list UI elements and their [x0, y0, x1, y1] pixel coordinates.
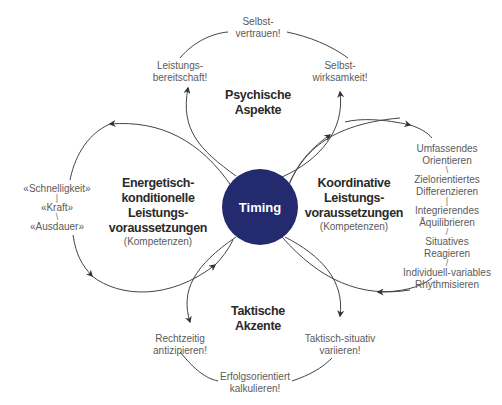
- heading-energetisch-konditionelle: Energetisch- konditionelle Leistungs- vo…: [98, 176, 218, 248]
- left-petal-lower-arm: [92, 265, 215, 292]
- left-outer-top: [70, 124, 110, 180]
- item-taktisch-situativ-variieren: Taktisch-situativ variieren!: [290, 333, 390, 357]
- right-items-list: UmfassendesOrientieren \ Zielorientierte…: [392, 143, 502, 291]
- timing-label: Timing: [239, 200, 281, 215]
- item-individuell-rhythmisieren: Individuell-variablesRhythmisieren: [392, 267, 502, 291]
- item-selbstvertrauen: Selbst- vertrauen!: [230, 16, 286, 40]
- top-outer-arc-right: [287, 32, 348, 58]
- right-upper-arc: [345, 120, 410, 125]
- timing-circle: Timing: [222, 169, 298, 245]
- item-leistungsbereitschaft: Leistungs- bereitschaft!: [140, 60, 220, 84]
- item-zielorientiertes-differenzieren: ZielorientiertesDifferenzieren: [392, 174, 502, 198]
- item-umfassendes-orientieren: UmfassendesOrientieren: [392, 143, 502, 167]
- heading-taktische-akzente: Taktische Akzente: [208, 304, 308, 334]
- item-erfolgsorientiert-kalkulieren: Erfolgsorientiert kalkulieren!: [205, 371, 305, 395]
- item-ausdauer: «Ausdauer»: [18, 221, 96, 233]
- left-outer-bottom: [73, 235, 92, 276]
- right-outer-top: [410, 125, 432, 138]
- item-integrierendes-aequilibrieren: IntegrierendesÄquilibrieren: [392, 205, 502, 229]
- item-selbstwirksamkeit: Selbst- wirksamkeit!: [300, 60, 380, 84]
- heading-psychische-aspekte: Psychische Aspekte: [208, 88, 308, 118]
- item-situatives-reagieren: SituativesReagieren: [392, 236, 502, 260]
- right-petal-lower-arm: [282, 237, 410, 292]
- top-outer-arc-left: [180, 32, 228, 58]
- left-items-list: «Schnelligkeit» | «Kraft» \ «Ausdauer»: [18, 183, 96, 233]
- item-rechtzeitig-antizipieren: Rechtzeitig antizipieren!: [140, 333, 220, 357]
- heading-koordinative: Koordinative Leistungs- voraussetzungen …: [302, 176, 406, 233]
